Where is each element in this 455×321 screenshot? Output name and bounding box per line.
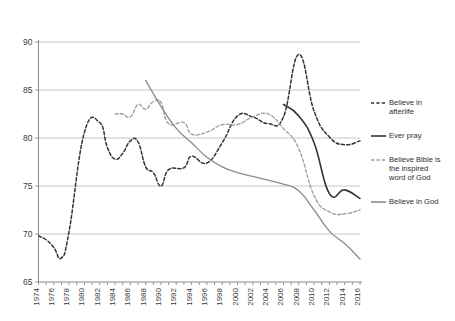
x-tick-label-2014: 2014 [338, 287, 347, 305]
x-tick-label-2004: 2004 [261, 287, 270, 305]
x-tick-label-2010: 2010 [307, 287, 316, 305]
line-chart: 657075808590 197419761978198019821984198… [0, 0, 455, 321]
y-tick-label-65: 65 [23, 277, 33, 287]
legend-label-3: Believe in God [389, 197, 438, 206]
series-group [39, 54, 361, 259]
y-tick-label-80: 80 [23, 133, 33, 143]
y-tick-label-70: 70 [23, 229, 33, 239]
legend-label-2: the inspired [389, 164, 428, 173]
series-line-0 [39, 54, 361, 258]
x-tick-label-2006: 2006 [276, 287, 285, 305]
legend-group: Believe inafterlifeEver prayBelieve Bibl… [371, 98, 441, 206]
series-line-3 [146, 80, 360, 259]
legend-label-0: afterlife [389, 107, 414, 116]
x-tick-label-1990: 1990 [154, 287, 163, 305]
x-tick-label-1992: 1992 [169, 287, 178, 305]
x-tick-label-2016: 2016 [353, 287, 362, 305]
x-tick-label-1998: 1998 [215, 287, 224, 305]
y-tick-label-75: 75 [23, 181, 33, 191]
x-tick-label-1982: 1982 [93, 287, 102, 305]
chart-canvas: 657075808590 197419761978198019821984198… [0, 0, 455, 321]
y-axis-group: 657075808590 [23, 37, 38, 287]
x-tick-label-1994: 1994 [185, 287, 194, 305]
x-tick-label-1986: 1986 [123, 287, 132, 305]
series-line-1 [283, 104, 360, 198]
legend-label-1: Ever pray [389, 131, 422, 140]
legend-label-2: Believe Bible is [389, 155, 441, 164]
x-tick-label-1980: 1980 [77, 287, 86, 305]
y-tick-label-90: 90 [23, 37, 33, 47]
x-tick-label-2000: 2000 [231, 287, 240, 305]
x-tick-label-1974: 1974 [32, 287, 41, 305]
x-axis-group: 1974197619781980198219841986198819901992… [32, 282, 363, 306]
x-tick-label-1988: 1988 [139, 287, 148, 305]
x-tick-label-1984: 1984 [108, 287, 117, 305]
x-tick-label-1978: 1978 [62, 287, 71, 305]
x-tick-label-2012: 2012 [322, 287, 331, 305]
x-tick-label-1976: 1976 [47, 287, 56, 305]
y-tick-label-85: 85 [23, 85, 33, 95]
x-tick-label-2002: 2002 [246, 287, 255, 305]
x-tick-label-2008: 2008 [292, 287, 301, 305]
legend-label-2: word of God [388, 173, 430, 182]
legend-label-0: Believe in [389, 98, 422, 107]
x-tick-label-1996: 1996 [200, 287, 209, 305]
